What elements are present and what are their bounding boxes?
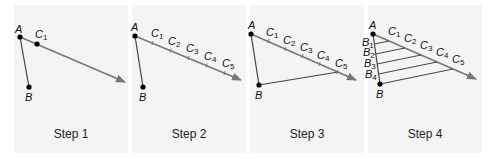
point-a <box>17 34 22 39</box>
svg-text:C5: C5 <box>335 57 348 71</box>
svg-text:C4: C4 <box>436 46 449 60</box>
step-3-caption: Step 3 <box>250 127 364 141</box>
point-c1 <box>34 41 39 46</box>
label-c1: C1 <box>35 28 48 42</box>
svg-text:A: A <box>368 19 376 31</box>
svg-text:A: A <box>130 21 138 33</box>
svg-text:C2: C2 <box>404 32 417 46</box>
step-2-caption: Step 2 <box>132 127 246 141</box>
svg-text:C4: C4 <box>317 49 330 63</box>
point-b <box>26 84 31 89</box>
step-3-figure: A C1 C2 C3 C4 C5 B <box>247 19 356 101</box>
step-1-figure: A C1 B <box>14 23 125 103</box>
label-a: A <box>14 23 22 35</box>
svg-text:C1: C1 <box>151 27 164 41</box>
svg-text:C2: C2 <box>283 34 296 48</box>
svg-text:C5: C5 <box>222 57 235 71</box>
svg-text:C3: C3 <box>300 41 313 55</box>
svg-text:B: B <box>139 91 146 103</box>
svg-text:C3: C3 <box>420 39 433 53</box>
segment-ab <box>20 37 29 87</box>
svg-text:C3: C3 <box>186 42 199 56</box>
svg-text:C4: C4 <box>204 50 217 64</box>
label-b: B <box>25 91 32 103</box>
svg-text:B: B <box>376 88 383 100</box>
step-1-caption: Step 1 <box>14 127 128 141</box>
svg-text:C2: C2 <box>168 35 181 49</box>
svg-text:B: B <box>255 89 262 101</box>
svg-text:C1: C1 <box>266 26 279 40</box>
svg-text:C5: C5 <box>452 53 465 67</box>
svg-text:A: A <box>247 19 255 31</box>
svg-text:C1: C1 <box>388 25 401 39</box>
step-2-figure: A C1 C2 C3 C4 C5 B <box>130 21 241 103</box>
step-4-figure: A C1 C2 C3 C4 C5 B1 B2 B3 B4 B <box>362 19 476 100</box>
step-4-caption: Step 4 <box>368 127 482 141</box>
